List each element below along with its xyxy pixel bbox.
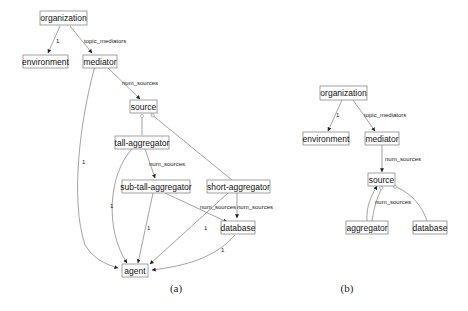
svg-text:source: source — [131, 102, 157, 112]
node-database: database — [221, 221, 256, 234]
panel-a: 1 topic_mediators num_sources 1 num_sour… — [22, 11, 273, 295]
node-environment: environment — [303, 132, 350, 145]
node-agent: agent — [122, 264, 148, 277]
node-mediator: mediator — [83, 55, 117, 68]
edge-label: 1 — [336, 112, 340, 118]
edge-label: num_sources — [237, 204, 273, 210]
node-source: source — [368, 173, 395, 186]
svg-text:environment: environment — [303, 134, 350, 144]
edge-tall-agent — [112, 149, 132, 263]
svg-text:database: database — [221, 223, 256, 233]
edge-label: num_sources — [122, 80, 158, 86]
node-short-aggregator: short-aggregator — [207, 180, 270, 193]
edge-label: 1 — [110, 203, 114, 209]
edge-med-agent — [78, 66, 118, 268]
edge-label: 1 — [147, 225, 151, 231]
node-database: database — [413, 221, 448, 234]
svg-text:aggregator: aggregator — [346, 223, 387, 233]
svg-text:agent: agent — [124, 266, 146, 276]
edge-label: num_sources — [200, 204, 236, 210]
svg-text:mediator: mediator — [365, 134, 398, 144]
edge-label: num_sources — [149, 161, 185, 167]
edge-label: 1 — [56, 38, 60, 44]
svg-text:sub-tall-aggregator: sub-tall-aggregator — [120, 182, 192, 192]
node-organization: organization — [40, 11, 87, 25]
edge-label: num_sources — [385, 156, 421, 162]
edge-label: 1 — [221, 247, 225, 253]
svg-text:tall-aggregator: tall-aggregator — [115, 138, 170, 148]
panel-b: 1 topic_mediators num_sources num_source… — [303, 86, 448, 295]
svg-text:environment: environment — [22, 57, 69, 67]
node-mediator: mediator — [365, 132, 399, 145]
edge-labels-b: 1 topic_mediators num_sources num_source… — [336, 112, 421, 205]
node-tall-aggregator: tall-aggregator — [115, 136, 170, 149]
edge-sub-agent — [138, 193, 153, 263]
svg-text:short-aggregator: short-aggregator — [207, 182, 270, 192]
caption-a: (a) — [170, 282, 183, 295]
edge-label: topic_mediators — [84, 38, 126, 44]
svg-text:database: database — [413, 223, 448, 233]
svg-text:organization: organization — [40, 13, 87, 23]
svg-text:organization: organization — [320, 88, 367, 98]
edge-label: 1 — [82, 159, 86, 165]
edge-org-env — [328, 100, 342, 131]
caption-b: (b) — [341, 282, 354, 295]
diagram-canvas: 1 topic_mediators num_sources 1 num_sour… — [0, 0, 468, 311]
node-aggregator: aggregator — [346, 221, 388, 234]
svg-text:mediator: mediator — [83, 57, 116, 67]
node-source: source — [130, 100, 157, 113]
svg-text:source: source — [369, 175, 395, 185]
node-organization: organization — [320, 86, 367, 100]
node-sub-tall-aggregator: sub-tall-aggregator — [120, 180, 192, 193]
edge-label: num_sources — [375, 199, 411, 205]
edge-label: topic_mediators — [364, 112, 406, 118]
node-environment: environment — [22, 55, 69, 68]
edge-label: 1 — [204, 225, 208, 231]
